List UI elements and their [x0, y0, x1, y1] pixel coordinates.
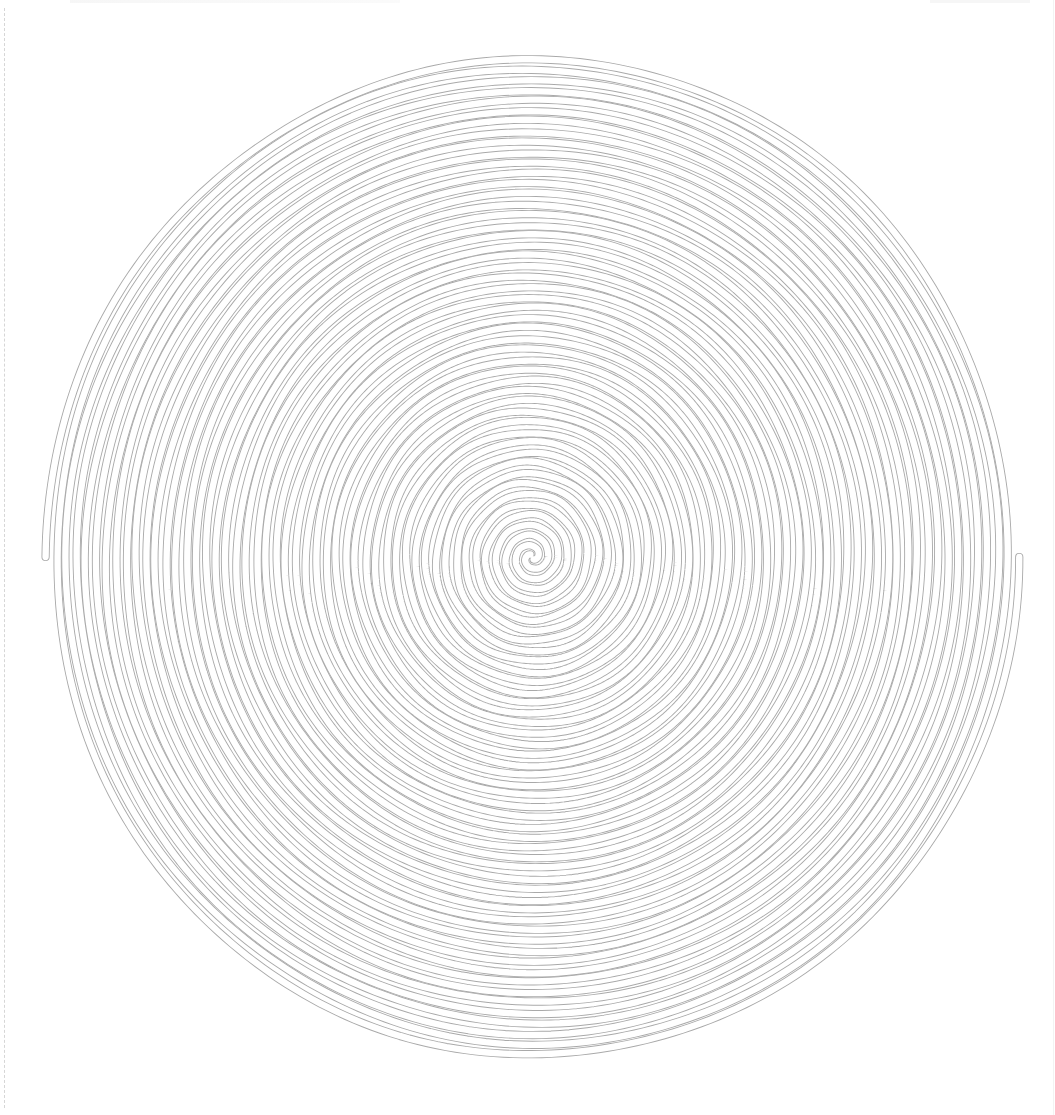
drawing-canvas: [0, 0, 1055, 1115]
double-spiral-drawing: [0, 0, 1055, 1115]
